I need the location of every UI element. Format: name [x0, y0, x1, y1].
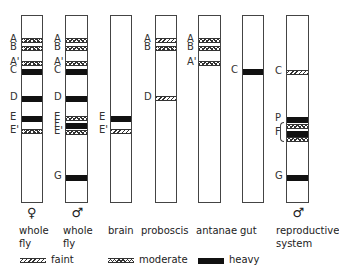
band-moderate — [22, 61, 42, 66]
gel-strip-5 — [242, 15, 264, 203]
band-heavy — [22, 116, 42, 122]
band-label: G — [54, 171, 62, 181]
band-moderate — [287, 137, 308, 142]
band-label: E — [99, 112, 105, 122]
column-label: proboscis — [141, 224, 189, 237]
column-label-line1: brain — [108, 224, 134, 237]
column-label-line2: fly — [63, 237, 93, 250]
legend-item-moderate: moderate — [108, 255, 188, 265]
band-heavy — [287, 117, 308, 123]
band-label: C — [231, 65, 238, 75]
band-label: G — [275, 171, 283, 181]
band-label: P — [275, 113, 281, 123]
band-moderate — [66, 46, 87, 51]
band-moderate — [199, 61, 220, 66]
band-heavy — [198, 258, 224, 264]
band-moderate — [199, 38, 220, 43]
column-label: reproductivesystem — [276, 224, 339, 250]
band-heavy — [66, 96, 87, 102]
column-label-line1: reproductive — [276, 224, 339, 237]
band-label: D — [144, 92, 152, 102]
band-moderate — [66, 61, 87, 66]
band-label: C — [10, 65, 17, 75]
band-heavy — [287, 175, 308, 181]
band-label: E' — [99, 125, 108, 135]
legend-swatch-faint — [20, 258, 46, 263]
band-label: D — [54, 92, 62, 102]
band-label: B — [187, 42, 194, 52]
band-moderate — [66, 38, 87, 43]
column-label-line1: antanae — [196, 224, 237, 237]
band-label: E' — [54, 126, 63, 136]
band-moderate — [22, 46, 42, 51]
gel-strip-4 — [198, 15, 221, 203]
band-faint — [111, 129, 131, 134]
band-label: B — [54, 42, 61, 52]
gel-strip-2 — [110, 15, 132, 203]
legend-item-heavy: heavy — [198, 255, 259, 265]
band-heavy — [243, 69, 263, 75]
legend-label: faint — [51, 255, 74, 265]
column-label: wholefly — [63, 224, 93, 250]
band-moderate — [199, 46, 220, 51]
band-heavy — [66, 123, 87, 129]
column-label-line1: whole — [19, 224, 49, 237]
column-label-line1: whole — [63, 224, 93, 237]
band-heavy — [111, 116, 131, 122]
band-label: C — [275, 66, 282, 76]
band-heavy — [66, 69, 87, 75]
band-label: D — [10, 92, 18, 102]
band-moderate — [156, 46, 176, 51]
band-label: B — [144, 42, 151, 52]
column-label-line1: proboscis — [141, 224, 189, 237]
legend-item-faint: faint — [20, 255, 74, 265]
female-symbol-icon: ♀ — [27, 206, 37, 219]
band-faint — [20, 258, 46, 263]
band-label: C — [54, 65, 61, 75]
band-moderate — [22, 38, 42, 43]
gel-strip-1 — [65, 15, 88, 203]
band-label: E — [10, 112, 16, 122]
band-moderate — [66, 130, 87, 135]
column-label-line2: system — [276, 237, 339, 250]
band-heavy — [66, 175, 87, 181]
gel-strip-0 — [21, 15, 43, 203]
column-label: antanae — [196, 224, 237, 237]
column-label: wholefly — [19, 224, 49, 250]
band-heavy — [22, 69, 42, 75]
band-label: E' — [10, 125, 19, 135]
band-moderate — [22, 129, 42, 134]
column-label: brain — [108, 224, 134, 237]
band-moderate — [66, 116, 87, 121]
band-label: B — [10, 42, 17, 52]
band-heavy — [22, 96, 42, 102]
f-bracket — [280, 122, 284, 142]
band-faint — [156, 38, 176, 43]
legend-swatch-heavy — [198, 258, 224, 263]
legend-label: moderate — [139, 255, 188, 265]
column-label-line2: fly — [19, 237, 49, 250]
legend-label: heavy — [229, 255, 259, 265]
column-label-line1: gut — [240, 224, 257, 237]
band-moderate — [108, 258, 134, 263]
band-moderate — [287, 124, 308, 129]
legend-swatch-moderate — [108, 258, 134, 263]
band-faint — [287, 70, 308, 75]
male-symbol-icon: ♂ — [72, 206, 84, 219]
band-faint — [156, 96, 176, 101]
male-symbol-icon: ♂ — [293, 206, 305, 219]
gel-strip-3 — [155, 15, 177, 203]
gel-strip-6 — [286, 15, 309, 203]
column-label: gut — [240, 224, 257, 237]
band-label: A' — [187, 57, 197, 67]
